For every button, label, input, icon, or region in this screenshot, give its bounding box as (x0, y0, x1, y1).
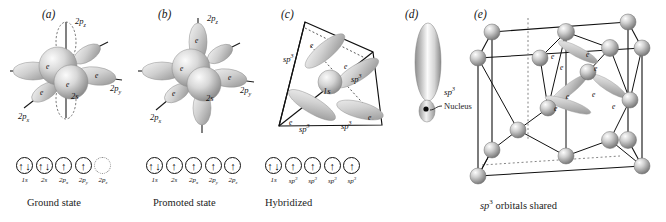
electron-label-c-4: e (368, 113, 371, 122)
spin-arrow-single: ↑ (167, 160, 182, 171)
spin-arrow-single: ↑ (186, 160, 201, 171)
label-2py-b: 2py (240, 86, 251, 97)
electron-label-e-5: e (566, 92, 569, 101)
orbital-box-b-1s: ↑↓ (146, 157, 163, 174)
box-label-c-sp3-4: sp3 (343, 176, 360, 185)
spin-arrows-pair: ↑↓ (37, 160, 52, 171)
panel-a-ground-state: (a) 2pz 2py 2px (0, 0, 140, 222)
spin-arrow-single: ↑ (344, 160, 359, 171)
electron-label-e-6: e (592, 90, 595, 99)
panel-e-caption: sp3 orbitals shared (480, 198, 557, 211)
box-label-a-2px: 2px (55, 176, 72, 185)
orbital-box-labels-a: 1s 2s 2px 2py 2pz (16, 176, 114, 185)
electron-label-e-4: e (594, 64, 597, 73)
spin-arrows-pair: ↑↓ (266, 160, 281, 171)
spin-arrow-single: ↑ (286, 160, 301, 171)
box-label-a-2s: 2s (36, 176, 53, 185)
electron-label-c-2: e (344, 62, 347, 71)
box-label-b-2py: 2py (205, 176, 222, 185)
electron-label-b-1: e (195, 36, 198, 45)
electron-label-a-2: e (66, 80, 69, 89)
panel-b-promoted-state: (b) 2pz 2 (140, 0, 265, 222)
spin-arrow-single: ↑ (76, 160, 91, 171)
box-label-c-sp3-3: sp3 (324, 176, 341, 185)
orbital-box-labels-b: 1s 2s 2px 2py 2pz (146, 176, 244, 185)
electron-label-a-4: e (40, 88, 43, 97)
label-sp3-c-1: sp3 (283, 53, 294, 63)
panel-b-caption: Promoted state (153, 197, 216, 208)
orbital-box-a-2px: ↑ (55, 157, 72, 174)
spin-arrow-single: ↑ (225, 160, 240, 171)
panel-e-lattice: (e) (470, 0, 666, 222)
panel-c-caption: Hybridized (265, 197, 312, 208)
label-2s-b: 2s (206, 94, 214, 103)
box-label-c-sp3-1: sp3 (285, 176, 302, 185)
orbital-box-c-sp3-1: ↑ (285, 157, 302, 174)
orbital-box-row-c: ↑↓ ↑ ↑ ↑ ↑ (265, 157, 363, 174)
electron-label-e-3: e (560, 63, 563, 72)
box-label-a-2pz: 2pz (94, 176, 111, 185)
label-2px-b: 2px (150, 113, 161, 124)
label-1s-core-c: 1s (323, 87, 331, 96)
panel-d-single-orbital: (d) sp3 Nucleus (400, 0, 475, 222)
label-2pz-b: 2pz (207, 14, 218, 25)
panel-c-tetrahedron-diagram (265, 0, 400, 155)
box-label-c-sp3-2: sp3 (304, 176, 321, 185)
panel-b-orbital-diagram (140, 0, 265, 150)
nucleus-label-d: Nucleus (444, 101, 472, 111)
orbital-box-c-sp3-2: ↑ (304, 157, 321, 174)
panel-d-orbital-diagram (400, 0, 475, 160)
spin-arrow-single: ↑ (206, 160, 221, 171)
spin-arrow-single: ↑ (305, 160, 320, 171)
box-label-b-2s: 2s (166, 176, 183, 185)
panel-c-hybridized: (c) sp3 sp3 (265, 0, 400, 222)
orbital-box-c-1s: ↑↓ (265, 157, 282, 174)
orbital-box-a-2py: ↑ (75, 157, 92, 174)
electron-label-e-7: e (554, 104, 557, 113)
orbital-box-labels-c: 1s sp3 sp3 sp3 sp3 (265, 176, 363, 185)
orbital-box-row-a: ↑↓ ↑↓ ↑ ↑ (16, 157, 114, 174)
orbital-box-b-2py: ↑ (205, 157, 222, 174)
box-label-a-1s: 1s (16, 176, 33, 185)
panel-a-orbital-diagram (0, 0, 140, 150)
label-2py-a: 2py (110, 84, 121, 95)
spin-arrows-pair: ↑↓ (147, 160, 162, 171)
electron-label-a-1: e (46, 62, 49, 71)
orbital-box-c-sp3-3: ↑ (324, 157, 341, 174)
label-sp3-d: sp3 (444, 86, 455, 97)
electron-label-b-4: e (172, 89, 175, 98)
box-label-a-2py: 2py (75, 176, 92, 185)
box-label-b-2px: 2px (185, 176, 202, 185)
label-2s-a: 2s (71, 92, 79, 101)
panel-a-caption: Ground state (27, 197, 81, 208)
orbital-box-a-1s: ↑↓ (16, 157, 33, 174)
spin-arrow-single: ↑ (325, 160, 340, 171)
electron-label-c-1: e (310, 41, 313, 50)
box-label-b-1s: 1s (146, 176, 163, 185)
orbital-box-b-2px: ↑ (185, 157, 202, 174)
orbital-box-b-2pz: ↑ (224, 157, 241, 174)
spin-arrow-single: ↑ (56, 160, 71, 171)
box-label-c-1s: 1s (265, 176, 282, 185)
box-label-b-2pz: 2pz (224, 176, 241, 185)
orbital-box-b-2s: ↑ (166, 157, 183, 174)
label-sp3-c-2: sp3 (351, 73, 362, 83)
electron-label-c-3: e (289, 118, 292, 127)
orbital-box-a-2pz-empty (94, 157, 111, 174)
orbital-box-c-sp3-4: ↑ (343, 157, 360, 174)
electron-label-a-3: e (95, 71, 98, 80)
label-sp3-c-4: sp3 (341, 120, 352, 130)
electron-label-b-3: e (228, 73, 231, 82)
electron-label-b-2: e (180, 64, 183, 73)
label-sp3-c-3: sp3 (299, 123, 310, 133)
label-2px-a: 2px (18, 112, 29, 123)
electron-label-e-1: e (551, 52, 554, 61)
electron-label-e-8: e (612, 102, 615, 111)
electron-label-e-2: e (586, 50, 589, 59)
orbital-box-row-b: ↑↓ ↑ ↑ ↑ ↑ (146, 157, 244, 174)
label-2pz-a: 2pz (75, 17, 86, 28)
spin-arrows-pair: ↑↓ (17, 160, 32, 171)
orbital-box-a-2s: ↑↓ (36, 157, 53, 174)
